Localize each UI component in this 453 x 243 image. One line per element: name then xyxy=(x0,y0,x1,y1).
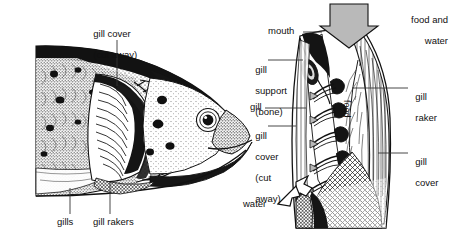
label-line: cover xyxy=(255,151,278,162)
label-mouth: mouth xyxy=(268,26,294,37)
label-line: food and xyxy=(411,14,448,25)
label-food: food xyxy=(342,100,353,118)
label-line: gill xyxy=(415,156,427,167)
fish-head-illustration xyxy=(36,40,252,214)
label-line: cover xyxy=(415,177,438,188)
label-water: water xyxy=(243,199,266,210)
label-gill-cover-cut-away-right: gill cover (cut away) xyxy=(250,120,281,204)
label-line: gill xyxy=(415,91,427,102)
label-line: (cut xyxy=(255,172,271,183)
label-gill: gill xyxy=(250,102,262,113)
label-line: (cut away) xyxy=(93,49,137,60)
label-gill-rakers: gill rakers xyxy=(93,217,134,228)
label-food-and-water: food and water xyxy=(330,4,448,46)
label-line: gill xyxy=(255,130,267,141)
label-line: gill cover xyxy=(93,28,131,39)
label-line: support xyxy=(255,85,287,96)
label-gills: gills xyxy=(57,217,73,228)
label-line: gill xyxy=(255,64,267,75)
label-gill-raker: gill raker xyxy=(410,81,437,123)
label-gill-cover-cut-away: gill cover (cut away) xyxy=(88,18,137,60)
label-line: raker xyxy=(415,112,437,123)
label-gill-cover: gill cover xyxy=(410,146,439,188)
label-line: water xyxy=(425,35,448,46)
water-exit-wall xyxy=(296,194,313,228)
